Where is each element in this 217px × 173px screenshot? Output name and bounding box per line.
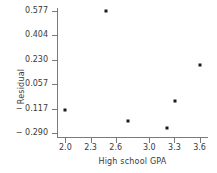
residual-scatter-chart: 0.5770.4040.2300.057− 0.117− 0.290 2.02.… bbox=[0, 0, 217, 173]
y-axis-title: Residual bbox=[14, 0, 28, 173]
data-point bbox=[198, 63, 201, 66]
plot-area bbox=[57, 8, 208, 137]
data-point bbox=[174, 99, 177, 102]
data-point bbox=[105, 10, 108, 13]
x-tick-label: 3.6 bbox=[185, 144, 215, 152]
data-point bbox=[64, 109, 67, 112]
data-point bbox=[165, 127, 168, 130]
x-axis-title: High school GPA bbox=[57, 157, 208, 166]
data-point bbox=[127, 120, 130, 123]
x-tick-label: 2.6 bbox=[101, 144, 131, 152]
x-axis-line bbox=[57, 137, 208, 138]
